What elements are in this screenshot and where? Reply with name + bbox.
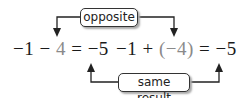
result: −5 bbox=[216, 38, 237, 59]
operator: + bbox=[142, 38, 153, 59]
opposite-label: opposite bbox=[80, 8, 138, 27]
equation-right: −1 + (−4) = −5 bbox=[116, 38, 237, 60]
term-a: −1 bbox=[116, 38, 137, 59]
result: −5 bbox=[88, 38, 109, 59]
arrow-down-icon bbox=[53, 28, 61, 37]
same-result-label: same result bbox=[118, 73, 190, 92]
arrow-up-icon bbox=[87, 63, 95, 72]
term-a: −1 bbox=[13, 38, 34, 59]
equation-left: −1 − 4 = −5 bbox=[13, 38, 109, 60]
same-result-label-text: same result bbox=[137, 75, 171, 98]
term-b: 4 bbox=[56, 38, 66, 59]
arrow-up-icon bbox=[215, 63, 223, 72]
term-b: (−4) bbox=[159, 38, 194, 59]
operator: − bbox=[39, 38, 50, 59]
equals: = bbox=[199, 38, 210, 59]
opposite-label-text: opposite bbox=[83, 10, 135, 24]
equals: = bbox=[71, 38, 82, 59]
arrow-down-icon bbox=[170, 28, 178, 37]
